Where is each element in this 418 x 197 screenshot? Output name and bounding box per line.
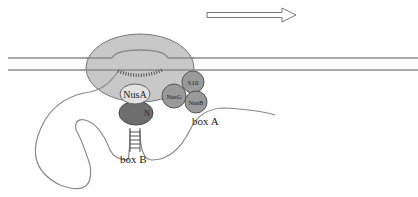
transcription-direction-arrow-icon: [207, 8, 296, 22]
n-protein: N: [119, 101, 153, 125]
box-b-label: box B: [120, 153, 147, 165]
diagram-canvas: N NusA NusG S10 NusB box A box B: [0, 0, 418, 197]
nusB-protein: NusB: [185, 91, 207, 113]
svg-text:S10: S10: [188, 79, 199, 87]
svg-text:N: N: [144, 109, 150, 118]
svg-text:NusA: NusA: [123, 89, 147, 100]
dna-double-strand: [8, 58, 418, 70]
nusG-protein: NusG: [162, 84, 186, 108]
svg-text:NusG: NusG: [166, 93, 181, 100]
box-b-hairpin: [130, 128, 140, 152]
s10-protein: S10: [182, 71, 204, 93]
svg-text:NusB: NusB: [189, 99, 204, 106]
nusA-protein: NusA: [120, 84, 150, 104]
box-a-label: box A: [192, 115, 219, 127]
